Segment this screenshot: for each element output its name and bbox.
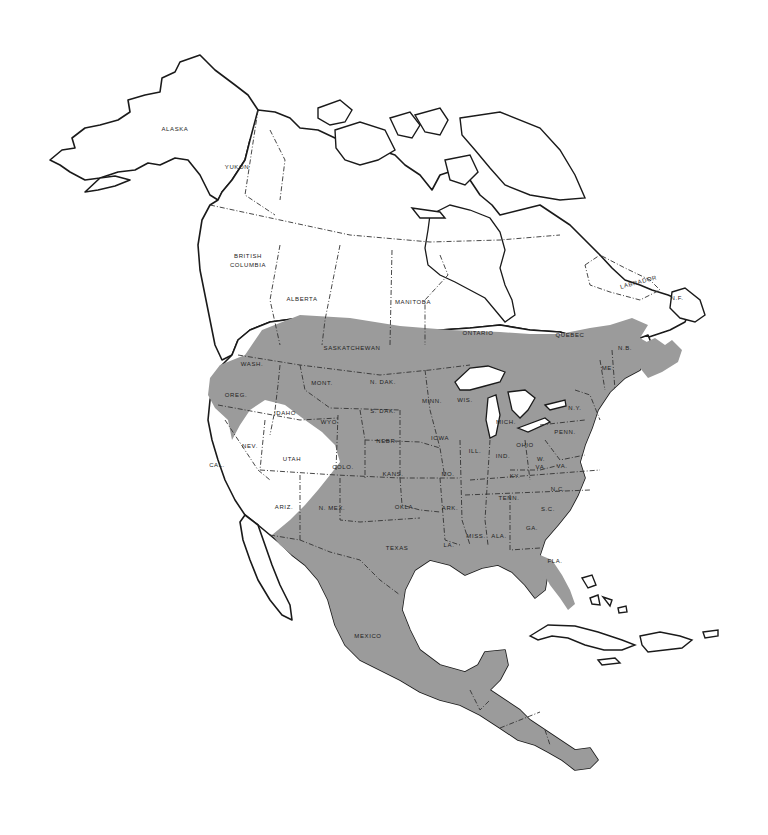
label-okla: OKLA. (395, 504, 416, 510)
jamaica (598, 658, 620, 665)
label-nmex: N. MEX. (319, 505, 346, 511)
label-me: ME. (602, 365, 614, 371)
arctic-island-4 (415, 108, 448, 135)
bahamas-4 (618, 606, 627, 613)
label-ga: GA. (526, 525, 538, 531)
alaska-landmass (50, 55, 262, 200)
label-wva-1: W. (537, 456, 545, 462)
label-ala: ALA. (491, 533, 506, 539)
baffin-island (460, 112, 585, 200)
label-british-columbia-2: COLUMBIA (230, 262, 266, 268)
north-america-range-map: ALASKA YUKON BRITISH COLUMBIA ALBERTA SA… (0, 0, 768, 835)
hispaniola (640, 632, 692, 652)
label-idaho: IDAHO (274, 410, 296, 416)
label-minn: MINN. (422, 398, 442, 404)
arctic-island-1 (318, 100, 352, 125)
puerto-rico (703, 630, 718, 638)
label-alberta: ALBERTA (287, 296, 318, 302)
label-wva-2: VA. (535, 464, 546, 470)
label-utah: UTAH (283, 456, 301, 462)
label-kans: KANS. (382, 471, 403, 477)
range-nova-scotia (640, 338, 682, 378)
bahamas-3 (603, 597, 612, 606)
label-nf: N.F. (670, 295, 683, 301)
label-va: VA. (556, 463, 567, 469)
bahamas-1 (582, 575, 596, 588)
bahamas-2 (590, 595, 600, 605)
label-penn: PENN. (554, 429, 575, 435)
label-ny: N.Y. (568, 405, 581, 411)
label-texas: TEXAS (386, 545, 409, 551)
label-ark: ARK. (442, 505, 458, 511)
label-ndak: N. DAK. (370, 379, 396, 385)
label-ind: IND. (496, 453, 510, 459)
label-wyo: WYO. (321, 419, 339, 425)
label-nebr: NEBR. (376, 438, 397, 444)
label-alaska: ALASKA (162, 126, 189, 132)
label-oreg: OREG. (225, 392, 247, 398)
label-sc: S.C. (541, 506, 555, 512)
label-saskatchewan: SASKATCHEWAN (324, 345, 381, 351)
label-sdak: S. DAK. (370, 408, 396, 414)
label-la: LA. (444, 542, 455, 548)
label-quebec: QUEBEC (556, 332, 585, 338)
label-ariz: ARIZ. (275, 504, 293, 510)
label-mich: MICH. (496, 419, 516, 425)
label-ohio: OHIO (516, 442, 534, 448)
range-area (208, 315, 652, 770)
label-ky: KY. (510, 473, 521, 479)
label-fla: FLA. (547, 558, 562, 564)
label-nb: N.B. (618, 345, 632, 351)
label-manitoba: MANITOBA (395, 299, 431, 305)
label-yukon: YUKON (225, 164, 249, 170)
label-wis: WIS. (457, 397, 472, 403)
label-colo: COLO. (332, 464, 354, 470)
label-miss: MISS. (466, 533, 485, 539)
label-mo: MO. (441, 471, 454, 477)
label-ontario: ONTARIO (462, 330, 493, 336)
label-mont: MONT. (311, 380, 333, 386)
label-tenn: TENN. (499, 495, 520, 501)
label-ill: ILL. (469, 448, 481, 454)
label-wash: WASH. (241, 361, 263, 367)
label-iowa: IOWA (431, 435, 449, 441)
label-nc: N.C. (551, 486, 565, 492)
label-mexico: MEXICO (354, 633, 381, 639)
label-nev: NEV. (242, 443, 258, 449)
label-cal: CAL. (209, 462, 225, 468)
cuba (530, 625, 635, 650)
arctic-island-5 (445, 155, 478, 185)
label-british-columbia-1: BRITISH (234, 253, 262, 259)
